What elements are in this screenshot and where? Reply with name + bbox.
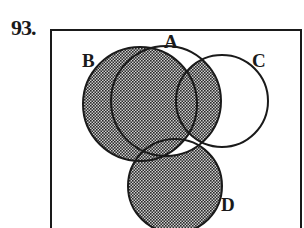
venn-diagram: A B C D [0,0,304,228]
label-c: C [252,50,266,71]
label-b: B [82,50,95,71]
label-a: A [164,31,178,52]
label-d: D [221,194,235,215]
shade-d-minus-a [0,0,304,228]
